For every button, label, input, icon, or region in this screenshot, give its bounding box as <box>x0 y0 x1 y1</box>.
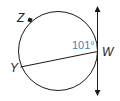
label-w: W <box>102 45 115 59</box>
label-z: Z <box>16 11 25 25</box>
circle <box>19 12 98 91</box>
chord-yw <box>21 52 98 68</box>
geometry-diagram: Z Y W 101° <box>0 0 120 101</box>
angle-label: 101° <box>72 39 95 51</box>
label-y: Y <box>10 61 19 75</box>
